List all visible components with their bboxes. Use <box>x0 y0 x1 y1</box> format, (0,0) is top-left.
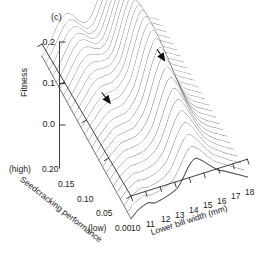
y-axis-tick-label: 0.2 <box>29 38 55 47</box>
panel-label: (c) <box>51 13 62 22</box>
left-axis-tick-label: 0.20 <box>42 165 59 174</box>
left-axis-tick-label: 0.05 <box>96 209 113 218</box>
left-axis-tick-label: 0.10 <box>77 195 94 204</box>
left-axis-tick-label: 0.00 <box>115 224 132 233</box>
x-axis-tick-label: 18 <box>245 188 254 197</box>
y-axis-title: Fitness <box>20 53 29 113</box>
y-axis-tick-label: 0.1 <box>29 79 55 88</box>
left-axis-tick-label: 0.15 <box>58 180 75 189</box>
y-axis-tick-label: 0.0 <box>29 120 55 129</box>
